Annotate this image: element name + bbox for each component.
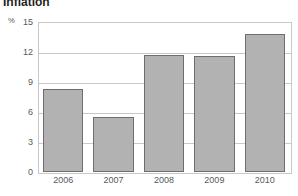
- x-axis-tick-labels: 20062007200820092010: [38, 175, 290, 191]
- y-tick-label-0: 0: [7, 167, 33, 177]
- y-tick-label-15: 15: [7, 17, 33, 27]
- bar-2006: [43, 89, 83, 172]
- y-tick-label-12: 12: [7, 47, 33, 57]
- y-tick-label-3: 3: [7, 137, 33, 147]
- bar-2010: [245, 34, 285, 172]
- bar-2008: [144, 55, 184, 172]
- chart-title: Inflation: [3, 0, 50, 9]
- y-tick-label-9: 9: [7, 77, 33, 87]
- x-tick-label-2006: 2006: [38, 175, 88, 185]
- x-tick-label-2007: 2007: [88, 175, 138, 185]
- y-axis-tick-labels: 03691215: [0, 22, 33, 172]
- bar-2007: [93, 117, 133, 172]
- bars-layer: [38, 22, 290, 172]
- bar-2009: [194, 56, 234, 172]
- x-tick-label-2009: 2009: [189, 175, 239, 185]
- x-tick-label-2010: 2010: [240, 175, 290, 185]
- inflation-bar-chart: Inflation % 03691215 2006200720082009201…: [0, 0, 298, 196]
- x-tick-label-2008: 2008: [139, 175, 189, 185]
- y-tick-label-6: 6: [7, 107, 33, 117]
